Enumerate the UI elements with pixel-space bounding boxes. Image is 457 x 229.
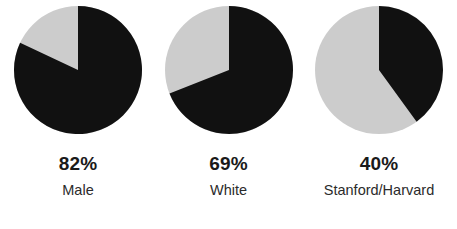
pie-chart-white: [164, 5, 294, 135]
pie-svg-stanford-harvard: [314, 5, 444, 135]
pie-labels-white: 69% White: [155, 154, 303, 198]
pie-chart-stanford-harvard: [314, 5, 444, 135]
pie-label-male: Male: [62, 183, 93, 198]
pie-labels-male: 82% Male: [4, 154, 152, 198]
pie-chart-group-white: 69% White: [155, 5, 303, 198]
pie-chart-row: 82% Male 69% White 40% Stanford/Harvard: [0, 0, 457, 229]
pie-percent-stanford-harvard: 40%: [360, 154, 399, 173]
pie-percent-white: 69%: [209, 154, 248, 173]
pie-svg-male: [13, 5, 143, 135]
pie-chart-group-male: 82% Male: [4, 5, 152, 198]
pie-labels-stanford-harvard: 40% Stanford/Harvard: [305, 154, 453, 198]
pie-chart-male: [13, 5, 143, 135]
pie-label-stanford-harvard: Stanford/Harvard: [324, 183, 434, 198]
pie-svg-white: [164, 5, 294, 135]
pie-chart-group-stanford-harvard: 40% Stanford/Harvard: [305, 5, 453, 198]
pie-percent-male: 82%: [59, 154, 98, 173]
pie-label-white: White: [210, 183, 247, 198]
